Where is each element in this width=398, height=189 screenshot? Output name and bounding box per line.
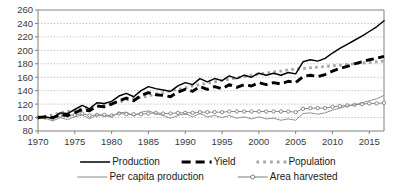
legend-item-population[interactable]: Population xyxy=(256,156,335,167)
series-line-production xyxy=(38,21,384,118)
series-marker-area-harvested xyxy=(206,110,209,113)
series-marker-area-harvested xyxy=(250,110,253,113)
x-axis-tick-label: 1975 xyxy=(64,136,85,147)
series-marker-area-harvested xyxy=(323,106,326,109)
x-axis-tick-label: 2000 xyxy=(248,136,269,147)
series-marker-area-harvested xyxy=(88,114,91,117)
y-axis-tick-label: 240 xyxy=(17,18,33,29)
y-axis-tick-label: 100 xyxy=(17,112,33,123)
series-marker-area-harvested xyxy=(375,102,378,105)
x-axis-tick-label: 1985 xyxy=(138,136,159,147)
series-marker-area-harvested xyxy=(220,110,223,113)
series-marker-area-harvested xyxy=(213,110,216,113)
legend-item-production[interactable]: Production xyxy=(80,156,160,167)
series-marker-area-harvested xyxy=(235,110,238,113)
series-marker-area-harvested xyxy=(257,110,260,113)
y-axis-tick-label: 200 xyxy=(17,45,33,56)
series-marker-area-harvested xyxy=(309,106,312,109)
series-marker-area-harvested xyxy=(147,112,150,115)
x-axis-tick-label: 1970 xyxy=(27,136,48,147)
x-axis-tick-label: 1995 xyxy=(211,136,232,147)
legend-item-yield[interactable]: Yield xyxy=(182,156,236,167)
x-axis-tick-label: 2010 xyxy=(322,136,343,147)
series-marker-area-harvested xyxy=(176,111,179,114)
series-marker-area-harvested xyxy=(272,110,275,113)
y-axis-tick-label: 120 xyxy=(17,99,33,110)
series-marker-area-harvested xyxy=(265,110,268,113)
chart-container: 80100120140160180200220240260 1970197519… xyxy=(0,0,398,189)
series-marker-area-harvested xyxy=(368,102,371,105)
y-axis-tick-label: 180 xyxy=(17,58,33,69)
y-axis-tick-label: 160 xyxy=(17,72,33,83)
x-axis-tick-label: 2005 xyxy=(285,136,306,147)
y-axis-tick-label: 220 xyxy=(17,31,33,42)
line-chart: 80100120140160180200220240260 1970197519… xyxy=(0,0,398,189)
series-marker-area-harvested xyxy=(338,104,341,107)
series-marker-area-harvested xyxy=(331,105,334,108)
y-axis-ticks: 80100120140160180200220240260 xyxy=(17,4,38,136)
chart-legend: ProductionYieldPopulationPer capita prod… xyxy=(77,156,337,182)
legend-item-per-capita-production[interactable]: Per capita production xyxy=(77,171,204,182)
series-marker-area-harvested xyxy=(191,111,194,114)
legend-item-area-harvested[interactable]: Area harvested xyxy=(238,171,338,182)
legend-marker-area-harvested xyxy=(251,175,255,179)
series-marker-area-harvested xyxy=(294,110,297,113)
series-marker-area-harvested xyxy=(287,110,290,113)
legend-label: Yield xyxy=(214,156,236,167)
y-axis-tick-label: 80 xyxy=(22,125,33,136)
legend-label: Per capita production xyxy=(109,171,204,182)
x-axis-ticks: 1970197519801985199019952000200520102015 xyxy=(27,131,379,147)
x-axis-tick-label: 1990 xyxy=(175,136,196,147)
series-marker-area-harvested xyxy=(279,110,282,113)
x-axis-tick-label: 2015 xyxy=(359,136,380,147)
series-marker-area-harvested xyxy=(169,112,172,115)
legend-label: Production xyxy=(112,156,160,167)
series-marker-area-harvested xyxy=(316,106,319,109)
legend-label: Area harvested xyxy=(270,171,338,182)
series-marker-area-harvested xyxy=(382,101,385,104)
series-marker-area-harvested xyxy=(301,107,304,110)
x-axis-tick-label: 1980 xyxy=(101,136,122,147)
y-axis-tick-label: 140 xyxy=(17,85,33,96)
series-marker-area-harvested xyxy=(161,112,164,115)
data-series xyxy=(36,21,385,121)
series-marker-area-harvested xyxy=(228,110,231,113)
series-marker-area-harvested xyxy=(242,110,245,113)
y-axis-tick-label: 260 xyxy=(17,4,33,15)
legend-label: Population xyxy=(288,156,335,167)
